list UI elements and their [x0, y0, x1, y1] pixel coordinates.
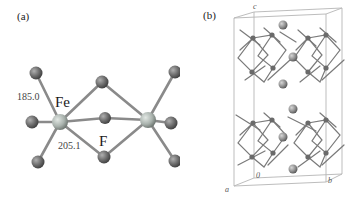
f-atom: [169, 155, 181, 168]
axis-b-label: b: [328, 177, 332, 185]
f-atom-bridging: [98, 151, 111, 164]
unit-cell-diagram: [180, 0, 354, 199]
f-atom: [165, 117, 178, 130]
origin-label: 0: [256, 172, 260, 180]
panel-b-label: (b): [203, 10, 216, 21]
axis-c-label: c: [253, 3, 257, 11]
f-atom-bridging: [99, 112, 111, 124]
f-atom: [169, 66, 181, 79]
fe-label: Fe: [55, 95, 70, 110]
fe-atom-left: [52, 114, 68, 130]
f-label: F: [99, 134, 107, 149]
cations: [279, 21, 298, 174]
terminal-bond-length: 185.0: [17, 92, 40, 102]
axis-a-label: a: [225, 186, 229, 194]
f-atom: [32, 156, 45, 169]
panel-a-label: (a): [17, 11, 29, 22]
panel-b-unit-cell: (b) c 0 a b: [180, 0, 354, 199]
f-atom: [30, 67, 43, 80]
f-atom-bridging: [96, 76, 109, 89]
f-atom: [26, 116, 39, 129]
bridging-bond-length: 205.1: [58, 141, 81, 151]
f-atoms: [26, 66, 181, 169]
fe-atom-right: [140, 112, 156, 128]
panel-a-dimer-structure: (a) 185.0 Fe 205.1 F: [0, 0, 180, 199]
